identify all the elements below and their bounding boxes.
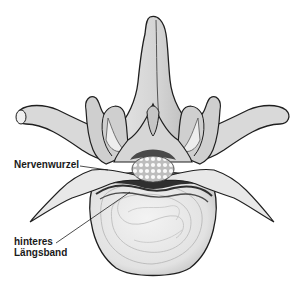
label-posterior-longitudinal-ligament: hinteres Längsband [14, 236, 67, 258]
spinal-cord [132, 156, 174, 182]
label-ligament-line1: hinteres [14, 236, 67, 247]
label-ligament-line2: Längsband [14, 247, 67, 258]
label-nerve-root: Nervenwurzel [14, 159, 79, 170]
